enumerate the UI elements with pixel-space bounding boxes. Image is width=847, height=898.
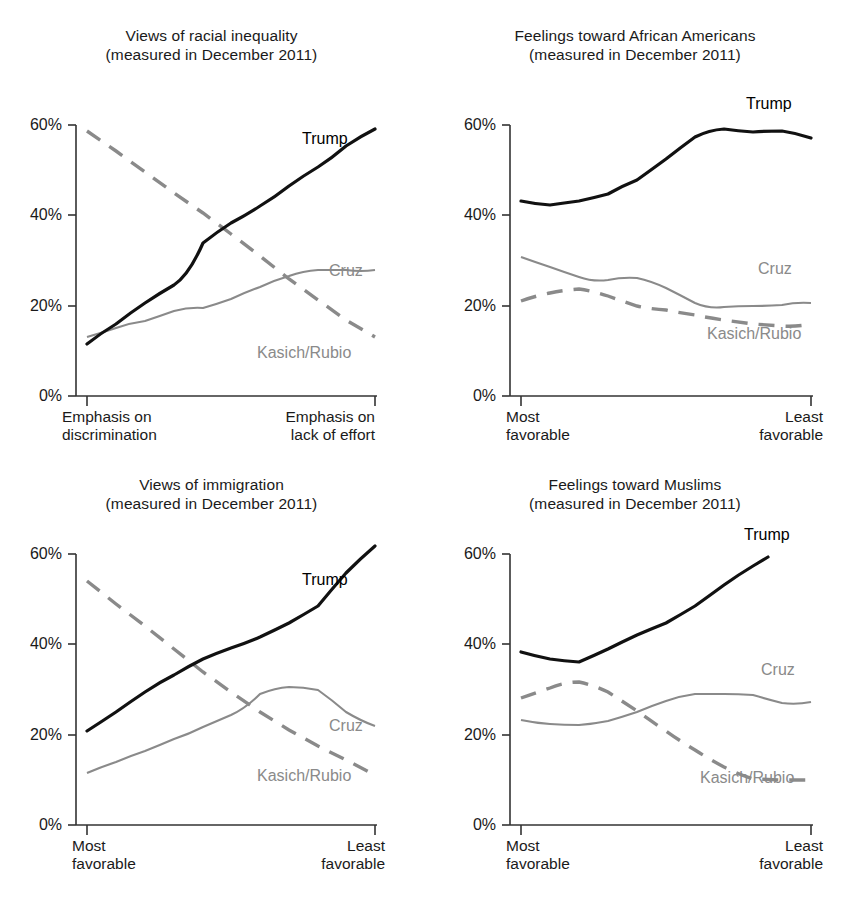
series-line-cruz — [87, 270, 375, 337]
x-axis-right-caption-line2: lack of effort — [291, 426, 375, 443]
x-axis-left-caption: Most favorable — [506, 837, 570, 873]
panel-immigration: Views of immigration (measured in Decemb… — [0, 449, 423, 898]
series-label-trump: Trump — [302, 130, 348, 148]
series-label-kasich-rubio: Kasich/Rubio — [257, 344, 351, 362]
x-axis-left-caption-line2: favorable — [506, 426, 570, 443]
y-tick-label-60: 60% — [448, 545, 496, 563]
x-axis-left-caption-line2: favorable — [72, 855, 136, 872]
plot-area — [0, 0, 423, 449]
y-tick-label-0: 0% — [448, 816, 496, 834]
y-tick-label-0: 0% — [14, 387, 62, 405]
x-axis-right-caption: Least favorable — [759, 408, 823, 444]
x-axis-right-caption-line2: favorable — [321, 855, 385, 872]
series-label-cruz: Cruz — [758, 260, 792, 278]
x-axis-left-caption-line1: Most — [506, 408, 540, 425]
y-tick-label-60: 60% — [14, 116, 62, 134]
y-tick-label-20: 20% — [448, 297, 496, 315]
series-label-trump: Trump — [302, 571, 348, 589]
panel-racial-inequality: Views of racial inequality (measured in … — [0, 0, 423, 449]
series-line-kasich-rubio — [87, 131, 375, 337]
series-label-cruz: Cruz — [329, 262, 363, 280]
series-label-cruz: Cruz — [761, 661, 795, 679]
x-axis-left-caption: Emphasis on discrimination — [62, 408, 157, 444]
y-tick-label-40: 40% — [448, 635, 496, 653]
x-axis-right-caption-line1: Emphasis on — [285, 408, 375, 425]
y-tick-label-20: 20% — [448, 726, 496, 744]
x-axis-left-caption: Most favorable — [72, 837, 136, 873]
x-axis-left-caption: Most favorable — [506, 408, 570, 444]
x-axis-right-caption-line1: Least — [347, 837, 385, 854]
series-label-trump: Trump — [744, 526, 790, 544]
series-line-kasich-rubio — [87, 581, 375, 775]
y-tick-label-20: 20% — [14, 726, 62, 744]
x-axis-left-caption-line2: discrimination — [62, 426, 157, 443]
x-axis-right-caption-line1: Least — [785, 837, 823, 854]
plot-area — [423, 0, 847, 449]
four-panel-line-chart-figure: Views of racial inequality (measured in … — [0, 0, 847, 898]
x-axis-left-caption-line1: Emphasis on — [62, 408, 152, 425]
panel-feelings-african-americans: Feelings toward African Americans (measu… — [423, 0, 847, 449]
panel-feelings-muslims: Feelings toward Muslims (measured in Dec… — [423, 449, 847, 898]
x-axis-right-caption-line1: Least — [785, 408, 823, 425]
y-tick-label-20: 20% — [14, 297, 62, 315]
y-tick-label-0: 0% — [448, 387, 496, 405]
series-label-kasich-rubio: Kasich/Rubio — [700, 769, 794, 787]
series-line-trump — [521, 129, 811, 205]
y-tick-label-40: 40% — [448, 206, 496, 224]
plot-area — [0, 449, 423, 898]
series-line-kasich-rubio — [521, 682, 811, 780]
series-line-cruz-main — [521, 694, 811, 725]
y-tick-label-40: 40% — [14, 635, 62, 653]
x-axis-left-caption-line2: favorable — [506, 855, 570, 872]
series-label-kasich-rubio: Kasich/Rubio — [707, 325, 801, 343]
series-line-kasich-rubio — [521, 289, 811, 326]
x-axis-right-caption-line2: favorable — [759, 426, 823, 443]
y-tick-label-60: 60% — [448, 116, 496, 134]
y-tick-label-60: 60% — [14, 545, 62, 563]
x-axis-left-caption-line1: Most — [506, 837, 540, 854]
x-axis-right-caption: Least favorable — [759, 837, 823, 873]
y-tick-label-40: 40% — [14, 206, 62, 224]
series-label-kasich-rubio: Kasich/Rubio — [257, 767, 351, 785]
x-axis-left-caption-line1: Most — [72, 837, 106, 854]
x-axis-right-caption: Emphasis on lack of effort — [285, 408, 375, 444]
series-label-cruz: Cruz — [329, 717, 363, 735]
x-axis-right-caption: Least favorable — [321, 837, 385, 873]
x-axis-right-caption-line2: favorable — [759, 855, 823, 872]
series-label-trump: Trump — [746, 95, 792, 113]
y-tick-label-0: 0% — [14, 816, 62, 834]
series-line-trump — [521, 557, 768, 662]
